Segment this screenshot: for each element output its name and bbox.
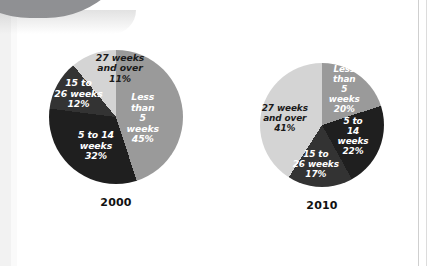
pie-graphic-2000 [49, 50, 183, 184]
pie-wrap-2000: Less than 5 weeks 45%5 to 14 weeks 32%15… [49, 50, 183, 184]
page-vertical-rule-outer [418, 0, 419, 266]
pie-graphic-2010 [260, 63, 384, 187]
page-left-margin-band [0, 0, 11, 266]
chart-caption-2000: 2000 [49, 196, 183, 209]
page-corner-curve-shadow [0, 10, 136, 34]
chart-caption-2010: 2010 [260, 199, 384, 212]
pie-chart-2000: Less than 5 weeks 45%5 to 14 weeks 32%15… [49, 50, 183, 184]
pie-chart-2010: Less than 5 weeks 20%5 to 14 weeks 22%15… [260, 63, 384, 187]
pie-wrap-2010: Less than 5 weeks 20%5 to 14 weeks 22%15… [260, 63, 384, 187]
page-canvas: Less than 5 weeks 45%5 to 14 weeks 32%15… [0, 0, 437, 266]
page-left-margin-band-inner [11, 0, 17, 266]
page-vertical-rule-inner [426, 0, 427, 266]
